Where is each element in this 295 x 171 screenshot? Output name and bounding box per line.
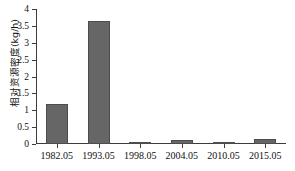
x-tick-label: 2004.05 xyxy=(166,149,199,162)
plot-area: 00.511.522.533.54 1982.051993.051998.052… xyxy=(36,9,286,144)
y-tick-label: 1.5 xyxy=(17,87,29,99)
x-tick-label: 1998.05 xyxy=(124,149,157,162)
y-tick-mark: 1.5 xyxy=(32,93,36,94)
x-tick-mark xyxy=(140,144,141,148)
bar xyxy=(254,139,276,144)
y-tick-label: 0 xyxy=(24,138,29,150)
axis-frame xyxy=(36,9,286,144)
x-tick-mark xyxy=(224,144,225,148)
y-tick-label: 0.5 xyxy=(17,121,29,133)
y-tick-label: 2 xyxy=(24,71,29,83)
x-tick-label: 1982.05 xyxy=(41,149,74,162)
y-tick-mark: 4 xyxy=(32,9,36,10)
y-tick-mark: 1 xyxy=(32,110,36,111)
bar xyxy=(213,142,235,144)
bar xyxy=(46,104,68,145)
y-tick-mark: 2 xyxy=(32,77,36,78)
y-tick-mark: 2.5 xyxy=(32,60,36,61)
x-tick-label: 2010.05 xyxy=(207,149,240,162)
x-tick-mark xyxy=(182,144,183,148)
x-tick-mark xyxy=(265,144,266,148)
bar xyxy=(129,142,151,144)
y-tick-mark: 3 xyxy=(32,43,36,44)
y-tick-mark: 0.5 xyxy=(32,127,36,128)
y-tick-mark: 3.5 xyxy=(32,26,36,27)
bar-chart-figure: 相对资源密度(kg/h) 00.511.522.533.54 1982.0519… xyxy=(0,0,295,171)
x-tick-mark xyxy=(99,144,100,148)
y-tick-label: 1 xyxy=(24,104,29,116)
x-tick-label: 2015.05 xyxy=(249,149,282,162)
bar xyxy=(171,140,193,144)
y-tick-label: 3 xyxy=(24,37,29,49)
y-tick-label: 4 xyxy=(24,3,29,15)
bar xyxy=(88,21,110,144)
y-tick-label: 2.5 xyxy=(17,54,29,66)
y-tick-mark: 0 xyxy=(32,144,36,145)
x-tick-mark xyxy=(57,144,58,148)
x-tick-label: 1993.05 xyxy=(82,149,115,162)
y-tick-label: 3.5 xyxy=(17,20,29,32)
